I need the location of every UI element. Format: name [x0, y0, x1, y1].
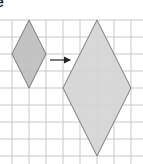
enlargement-diagram: [0, 0, 143, 164]
large-rhombus: [63, 20, 131, 156]
small-rhombus: [12, 20, 46, 88]
